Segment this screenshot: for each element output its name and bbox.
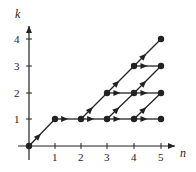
lattice-node [104,116,110,122]
diagonal-edge [107,93,134,119]
arrowhead-icon [140,63,147,69]
arrowhead-icon [113,90,120,96]
lattice-node [131,116,137,122]
x-tick-label: 1 [52,151,58,163]
x-tick-label: 5 [158,151,164,163]
x-tick-label: 3 [104,151,110,163]
arrowhead-icon [113,116,120,122]
diagonal-edge [29,119,55,146]
lattice-node [131,90,137,96]
lattice-node [52,116,58,122]
arrowhead-icon [61,116,68,122]
diagonal-edge [134,66,161,93]
lattice-node [158,90,164,96]
lattice-node [104,90,110,96]
diagonal-edge [81,93,107,119]
x-tick-label: 2 [78,151,84,163]
x-tick-label: 4 [131,151,137,163]
lattice-node [158,116,164,122]
y-tick-label: 2 [14,87,20,99]
y-tick-label: 4 [14,33,20,45]
lattice-node [78,116,84,122]
diagonal-edge [134,39,161,66]
lattice-node [158,63,164,69]
lattice-node [26,143,32,149]
diagonal-edge [107,66,134,93]
lattice-node [158,36,164,42]
arrowhead-icon [140,90,147,96]
arrowhead-icon [87,116,94,122]
lattice-node [131,63,137,69]
y-tick-label: 3 [14,60,20,72]
diagonal-edge [134,93,161,119]
arrowhead-icon [140,116,147,122]
lattice-path-diagram: n k 1 2 3 4 5 1 2 3 4 [0,0,196,172]
edges [29,39,161,146]
y-axis-label: k [15,7,21,21]
x-axis-label: n [180,146,186,160]
y-tick-label: 1 [14,113,20,125]
